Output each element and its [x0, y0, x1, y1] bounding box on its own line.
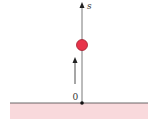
s-axis-arrowhead-icon: [80, 2, 85, 8]
origin-label: 0: [73, 92, 79, 102]
velocity-arrow-icon: [73, 57, 78, 63]
origin-dot: [80, 101, 84, 105]
s-axis-label: s: [87, 1, 92, 11]
projectile-diagram: s 0: [0, 0, 148, 127]
ball: [77, 40, 88, 51]
ground: [10, 103, 148, 119]
